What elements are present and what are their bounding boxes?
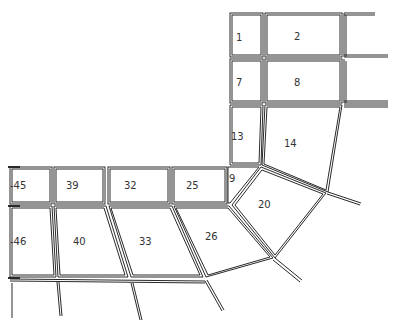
element-label-13: 13 [231, 131, 244, 142]
element-label-8: 8 [294, 77, 300, 88]
element-label-2: 2 [294, 31, 300, 42]
mesh-diagram: 1 2 7 8 13 14 9 20 25 26 32 33 39 40 -45… [0, 0, 393, 329]
element-label-39: 39 [66, 180, 79, 191]
element-label-40: 40 [73, 236, 86, 247]
element-label-20: 20 [258, 199, 271, 210]
element-label-7: 7 [236, 77, 242, 88]
element-label-46: -46 [10, 236, 26, 247]
element-label-19: 9 [229, 173, 235, 184]
element-label-1: 1 [236, 32, 242, 43]
element-label-25: 25 [186, 180, 199, 191]
element-label-32: 32 [124, 180, 137, 191]
element-labels: 1 2 7 8 13 14 9 20 25 26 32 33 39 40 -45… [10, 31, 300, 247]
mesh-edges [8, 13, 388, 320]
element-label-26: 26 [205, 231, 218, 242]
element-label-33: 33 [139, 236, 152, 247]
element-label-14: 14 [284, 138, 297, 149]
element-label-45: -45 [10, 180, 26, 191]
